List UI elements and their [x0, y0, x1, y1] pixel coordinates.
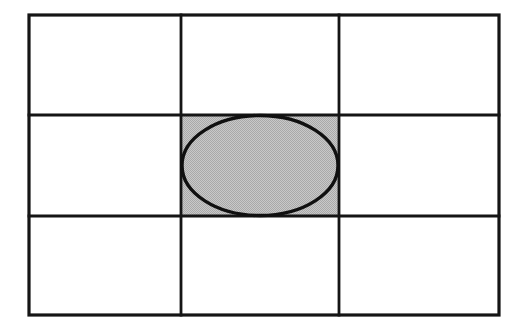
cell-r0-c0[interactable] [29, 15, 181, 115]
cell-r1-c0[interactable] [29, 115, 181, 216]
cell-r2-c1[interactable] [181, 216, 339, 315]
cell-r2-c2[interactable] [339, 216, 499, 315]
cell-r1-c2[interactable] [339, 115, 499, 216]
cell-r2-c0[interactable] [29, 216, 181, 315]
grid-ellipse-figure: Grid with inscribed shaded ellipse A 3 b… [0, 0, 519, 332]
figure-canvas: Grid with inscribed shaded ellipse A 3 b… [0, 0, 519, 332]
cell-r0-c2[interactable] [339, 15, 499, 115]
cell-r0-c1[interactable] [181, 15, 339, 115]
